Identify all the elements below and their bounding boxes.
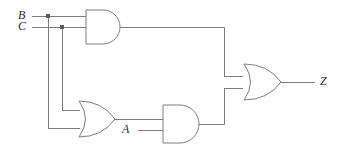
circuit-canvas xyxy=(0,0,346,146)
wire-c-branch-to-or xyxy=(62,27,80,110)
gate-and-top xyxy=(86,10,120,44)
wire-and-top-output xyxy=(120,27,243,76)
logic-circuit-diagram: B C A Z xyxy=(0,0,346,146)
wire-and-bottom-output xyxy=(199,88,243,124)
gate-or-bottom xyxy=(79,101,115,137)
junction-dot-b xyxy=(46,14,50,18)
wire-b-branch-to-or xyxy=(48,16,80,128)
junction-dot-c xyxy=(60,25,64,29)
input-label-a: A xyxy=(122,123,129,135)
output-label-z: Z xyxy=(320,75,327,87)
gate-or-right xyxy=(244,64,281,100)
input-label-c: C xyxy=(18,20,26,32)
gate-and-bottom xyxy=(163,105,199,143)
